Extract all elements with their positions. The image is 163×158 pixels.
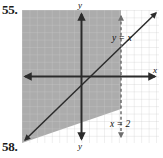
problem-number-58: 58. <box>2 140 18 153</box>
problem-number-55: 55. <box>2 3 18 16</box>
y-axis-label-bottom: y <box>78 142 82 151</box>
graph-figure: 55. 58. <box>0 0 163 158</box>
y-axis-label-top: y <box>78 1 82 10</box>
coordinate-plane: y y x y = x x = 2 <box>22 10 159 143</box>
plot-canvas <box>22 10 159 143</box>
